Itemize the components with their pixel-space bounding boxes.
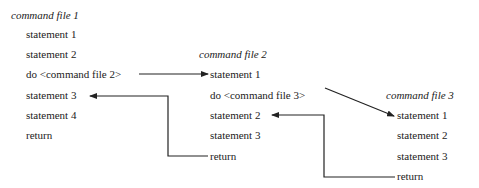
return-arrow-file2 — [90, 96, 208, 156]
return-arrow-file3 — [272, 115, 395, 177]
flow-arrows — [0, 0, 479, 188]
call-arrow-file3 — [325, 88, 394, 116]
